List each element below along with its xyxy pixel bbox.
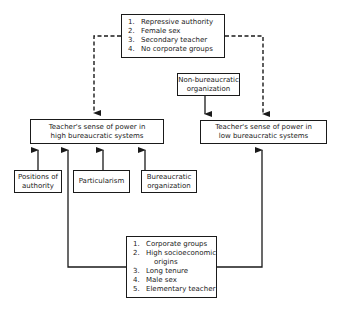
list-item: 3.Long tenure — [133, 267, 210, 276]
high-bureaucratic-power-box: Teacher's sense of power in high bureauc… — [30, 119, 164, 144]
list-item: 2.High socioeconomic — [133, 249, 210, 258]
list-item-continuation: origins — [133, 258, 210, 267]
list-item: 1.Corporate groups — [133, 240, 210, 249]
bureaucratic-organization-box: Bureaucratic organization — [141, 170, 197, 193]
dashed-connector-to-high — [94, 36, 121, 113]
list-item: 4.No corporate groups — [128, 45, 218, 54]
low-bureaucratic-power-box: Teacher's sense of power in low bureaucr… — [200, 120, 327, 144]
top-factors-box: 1.Repressive authority 2.Female sex 3.Se… — [121, 14, 225, 58]
arrow-bottom-to-high — [68, 150, 126, 267]
positions-of-authority-box: Positions of authority — [14, 170, 62, 193]
bottom-factors-box: 1.Corporate groups 2.High socioeconomic … — [126, 236, 217, 298]
list-item: 2.Female sex — [128, 27, 218, 36]
list-item: 5.Elementary teacher — [133, 285, 210, 294]
arrow-bottom-to-low — [217, 150, 262, 267]
list-item: 1.Repressive authority — [128, 18, 218, 27]
list-item: 4.Male sex — [133, 276, 210, 285]
particularism-box: Particularism — [73, 170, 130, 193]
list-item: 3.Secondary teacher — [128, 36, 218, 45]
non-bureaucratic-box: Non-bureaucratic organization — [177, 73, 240, 96]
